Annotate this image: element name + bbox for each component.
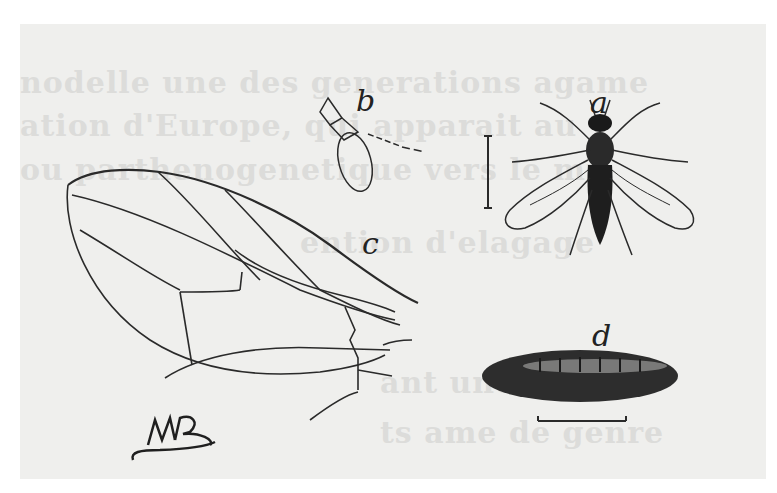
puparium-illustration (482, 350, 678, 402)
scale-bar-d (538, 416, 626, 421)
monogram-signature (132, 417, 215, 460)
scale-bar-a (484, 136, 492, 208)
label-c: c (362, 226, 379, 261)
wing-illustration (67, 170, 418, 420)
label-a: a (590, 85, 608, 120)
fly-illustration (506, 100, 694, 255)
label-d: d (592, 318, 611, 353)
label-b: b (356, 83, 375, 118)
illustration (0, 0, 777, 493)
